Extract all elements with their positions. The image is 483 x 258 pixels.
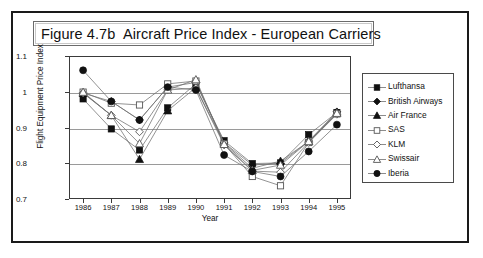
data-point bbox=[136, 102, 142, 108]
legend-item-klm[interactable]: KLM bbox=[367, 137, 453, 151]
figure-title-box: Figure 4.7b Aircraft Price Index - Europ… bbox=[33, 21, 374, 46]
legend-item-iberia[interactable]: Iberia bbox=[367, 165, 453, 179]
series-layer bbox=[69, 56, 351, 199]
figure-root: Figure 4.7b Aircraft Price Index - Europ… bbox=[0, 0, 483, 258]
x-tick-label: 1995 bbox=[317, 203, 357, 212]
data-point bbox=[80, 67, 87, 74]
data-point bbox=[333, 121, 340, 128]
series-air-france bbox=[79, 83, 341, 171]
data-point bbox=[305, 148, 312, 155]
filled-circle-icon bbox=[367, 166, 387, 179]
legend-item-label: KLM bbox=[387, 139, 405, 149]
y-axis-title: Flight Equipment Price Index bbox=[36, 37, 45, 157]
data-point bbox=[136, 117, 143, 124]
series-line bbox=[83, 87, 337, 168]
legend-item-label: Air France bbox=[387, 110, 427, 120]
plot-wrapper: Flight Equipment Price Index 0.70.80.911… bbox=[20, 50, 360, 230]
filled-square-icon bbox=[367, 80, 387, 93]
y-tick-label: 0.7 bbox=[0, 195, 27, 204]
series-line bbox=[83, 84, 337, 164]
legend-item-label: SAS bbox=[387, 124, 405, 134]
series-british-airways bbox=[79, 79, 341, 169]
series-iberia bbox=[80, 67, 341, 180]
data-point bbox=[277, 173, 284, 180]
legend-item-label: Lufthansa bbox=[387, 81, 425, 91]
chart-legend: LufthansaBritish AirwaysAir FranceSASKLM… bbox=[362, 73, 454, 183]
open-square-icon bbox=[367, 123, 387, 136]
filled-diamond-icon bbox=[367, 94, 387, 107]
series-klm bbox=[79, 84, 341, 176]
legend-item-label: British Airways bbox=[387, 96, 442, 106]
open-diamond-icon bbox=[367, 137, 387, 150]
data-point bbox=[249, 168, 256, 175]
legend-item-lufthansa[interactable]: Lufthansa bbox=[367, 79, 453, 93]
y-tick-mark bbox=[65, 199, 69, 200]
data-point bbox=[221, 152, 228, 159]
data-point bbox=[164, 84, 171, 91]
legend-item-label: Swissair bbox=[387, 153, 419, 163]
page-title: Figure 4.7b Aircraft Price Index - Europ… bbox=[41, 26, 381, 42]
data-point bbox=[135, 155, 143, 162]
data-point bbox=[277, 183, 283, 189]
data-point bbox=[192, 86, 199, 93]
series-sas bbox=[80, 78, 340, 189]
legend-item-swissair[interactable]: Swissair bbox=[367, 151, 453, 165]
filled-triangle-icon bbox=[367, 108, 387, 121]
y-tick-label: 1 bbox=[0, 87, 27, 96]
series-swissair bbox=[79, 76, 341, 174]
legend-item-air-france[interactable]: Air France bbox=[367, 108, 453, 122]
legend-item-british-airways[interactable]: British Airways bbox=[367, 93, 453, 107]
data-point bbox=[108, 126, 114, 132]
y-tick-label: 1.1 bbox=[0, 52, 27, 61]
open-triangle-icon bbox=[367, 152, 387, 165]
data-point bbox=[136, 128, 144, 136]
legend-item-label: Iberia bbox=[387, 168, 409, 178]
x-axis-title: Year bbox=[69, 214, 351, 223]
data-point bbox=[108, 98, 115, 105]
y-tick-label: 0.8 bbox=[0, 159, 27, 168]
data-point bbox=[136, 147, 142, 153]
series-line bbox=[83, 81, 337, 186]
legend-item-sas[interactable]: SAS bbox=[367, 122, 453, 136]
y-tick-label: 0.9 bbox=[0, 123, 27, 132]
series-line bbox=[83, 70, 337, 176]
series-line bbox=[83, 80, 337, 171]
